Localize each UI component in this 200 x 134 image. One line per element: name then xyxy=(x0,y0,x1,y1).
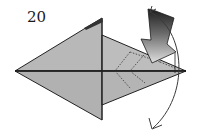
origami-diagram xyxy=(0,0,200,134)
